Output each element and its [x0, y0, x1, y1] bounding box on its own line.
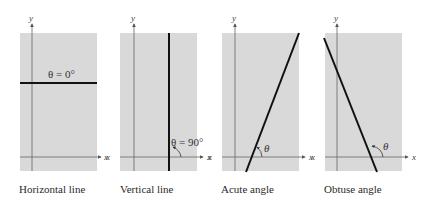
- y-axis-label: y: [231, 13, 236, 23]
- x-axis-label-left: x: [310, 152, 315, 162]
- panel-obtuse-angle: x x y θ: [310, 13, 416, 172]
- x-axis-label-left: x: [105, 152, 110, 162]
- y-axis-label: y: [130, 13, 135, 23]
- x-axis-label: x: [411, 152, 416, 162]
- caption-acute-angle: Acute angle: [221, 183, 274, 195]
- caption-horizontal-line: Horizontal line: [19, 183, 85, 195]
- x-axis-label-left: x: [207, 152, 212, 162]
- panel-horizontal-line: x y θ = 0°: [20, 13, 108, 171]
- y-axis-label: y: [28, 13, 33, 23]
- angle-label: θ = 0°: [48, 68, 75, 80]
- angle-label: θ = 90°: [171, 136, 203, 148]
- y-axis-label: y: [333, 13, 338, 23]
- panel-acute-angle: x x y θ: [207, 13, 313, 172]
- panel-background: [20, 33, 97, 171]
- caption-obtuse-angle: Obtuse angle: [324, 183, 382, 195]
- angle-label: θ: [264, 142, 270, 154]
- panel-background: [120, 33, 197, 171]
- panel-vertical-line: x x y θ = 90°: [105, 13, 211, 171]
- inclination-diagrams: x y θ = 0° x x y θ = 90° x x y θ x x y: [0, 0, 425, 208]
- caption-vertical-line: Vertical line: [120, 183, 173, 195]
- panel-background: [325, 33, 402, 171]
- angle-label: θ: [383, 140, 389, 152]
